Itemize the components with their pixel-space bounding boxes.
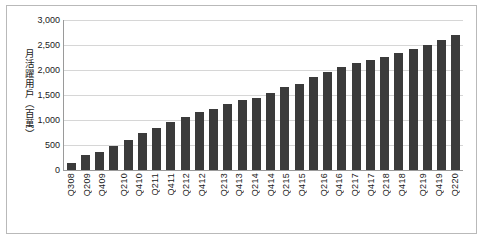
x-tick-label: Q409 bbox=[97, 173, 107, 196]
x-tick-label: Q210 bbox=[119, 173, 129, 196]
bar bbox=[309, 77, 318, 170]
x-tick-label: Q215 bbox=[281, 173, 291, 196]
x-tick-label: Q218 bbox=[381, 173, 391, 196]
bar bbox=[67, 163, 76, 170]
plot-area: 05001,0001,5002,0002,5003,000 bbox=[63, 20, 463, 171]
x-tick-label: Q217 bbox=[350, 173, 360, 196]
x-axis-ticks: Q308Q209Q409Q210Q410Q211Q411Q212Q412Q213… bbox=[63, 173, 463, 225]
x-tick-label: Q219 bbox=[418, 173, 428, 196]
y-tick-label: 2,000 bbox=[37, 65, 60, 75]
bar bbox=[209, 109, 218, 170]
bar bbox=[181, 117, 190, 170]
y-axis-label: 月活躍用戶（百萬） bbox=[21, 24, 35, 164]
bar bbox=[223, 104, 232, 170]
x-tick-label: Q413 bbox=[234, 173, 244, 196]
x-tick-label: Q211 bbox=[150, 173, 160, 196]
bar bbox=[280, 87, 289, 170]
bar bbox=[423, 45, 432, 170]
bar bbox=[323, 72, 332, 170]
bar bbox=[124, 140, 133, 170]
bar bbox=[81, 155, 90, 170]
y-tick-label: 1,000 bbox=[37, 115, 60, 125]
bar bbox=[437, 40, 446, 170]
y-tick-label: 1,500 bbox=[37, 90, 60, 100]
x-tick-label: Q220 bbox=[450, 173, 460, 196]
bar bbox=[394, 53, 403, 170]
bar bbox=[238, 100, 247, 170]
y-tick-label: 3,000 bbox=[37, 15, 60, 25]
x-tick-label: Q410 bbox=[134, 173, 144, 196]
bar bbox=[109, 146, 118, 170]
bar bbox=[252, 98, 261, 170]
bar bbox=[366, 60, 375, 170]
x-tick-label: Q419 bbox=[434, 173, 444, 196]
bar bbox=[152, 128, 161, 170]
x-tick-label: Q214 bbox=[250, 173, 260, 196]
bar bbox=[95, 152, 104, 170]
x-tick-label: Q412 bbox=[197, 173, 207, 196]
x-tick-label: Q209 bbox=[82, 173, 92, 196]
y-tick-label: 0 bbox=[55, 165, 60, 175]
bar bbox=[166, 122, 175, 170]
x-tick-label: Q415 bbox=[297, 173, 307, 196]
x-tick-label: Q411 bbox=[166, 173, 176, 196]
y-tick-label: 500 bbox=[45, 140, 60, 150]
chart-card: 月活躍用戶（百萬） 05001,0001,5002,0002,5003,000 … bbox=[6, 5, 477, 234]
x-tick-label: Q213 bbox=[219, 173, 229, 196]
x-tick-label: Q308 bbox=[66, 173, 76, 196]
bar bbox=[138, 133, 147, 170]
y-tick-label: 2,500 bbox=[37, 40, 60, 50]
x-tick-label: Q417 bbox=[366, 173, 376, 196]
x-tick-label: Q212 bbox=[181, 173, 191, 196]
bar bbox=[337, 67, 346, 170]
x-tick-label: Q418 bbox=[397, 173, 407, 196]
bar bbox=[451, 35, 460, 170]
bar bbox=[295, 84, 304, 170]
bar bbox=[195, 112, 204, 170]
bar bbox=[380, 57, 389, 171]
x-tick-label: Q416 bbox=[334, 173, 344, 196]
bar bbox=[352, 63, 361, 170]
x-tick-label: Q414 bbox=[266, 173, 276, 196]
x-tick-label: Q216 bbox=[319, 173, 329, 196]
bar bbox=[409, 49, 418, 170]
bar bbox=[266, 93, 275, 170]
bar-series bbox=[64, 20, 463, 170]
